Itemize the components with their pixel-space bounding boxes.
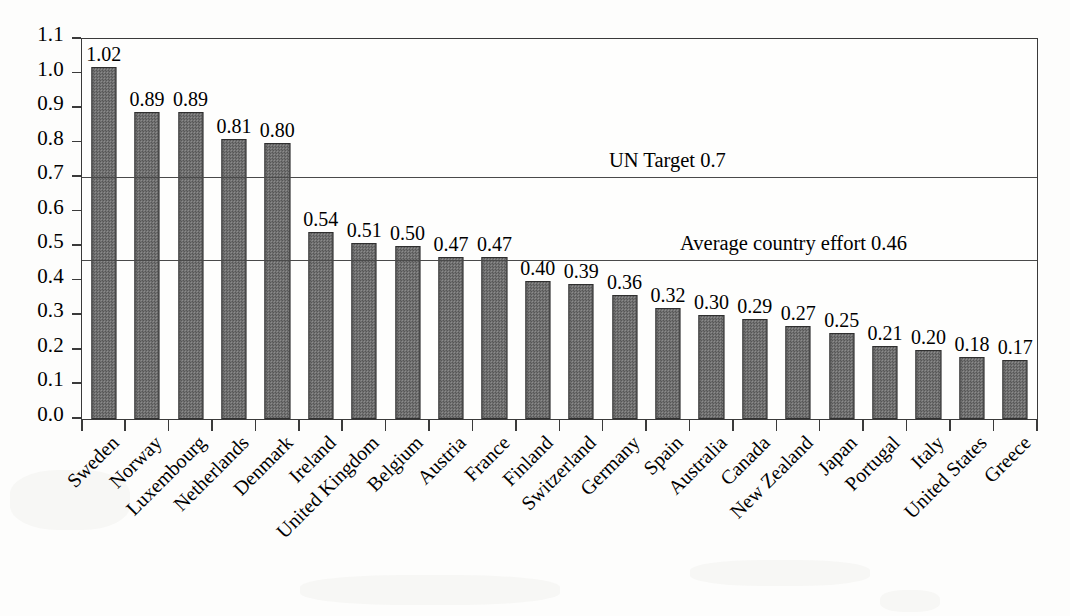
x-axis-tick-mark xyxy=(472,420,474,431)
bar-value-label: 1.02 xyxy=(86,44,121,64)
x-axis-category-label: Austria xyxy=(414,432,470,488)
x-axis-ticks xyxy=(81,420,1038,432)
bar-value-label: 0.17 xyxy=(998,337,1033,357)
x-axis-tick-mark xyxy=(211,420,213,431)
y-axis-tick-label: 0.7 xyxy=(37,162,64,183)
y-axis-tick-label: 0.2 xyxy=(37,335,64,356)
bar xyxy=(699,315,724,419)
y-axis-tick-mark xyxy=(72,175,81,177)
bar-value-label: 0.51 xyxy=(347,220,382,240)
y-axis-tick-label: 0.6 xyxy=(37,197,64,218)
bar xyxy=(221,139,246,419)
bar-value-label: 0.30 xyxy=(694,292,729,312)
bar-slot: 0.21 xyxy=(863,39,906,419)
bar-value-label: 0.89 xyxy=(173,89,208,109)
y-axis-tick-mark xyxy=(72,417,81,419)
reference-line-label: UN Target 0.7 xyxy=(609,150,726,171)
bar-value-label: 0.36 xyxy=(607,272,642,292)
bar-slot: 0.39 xyxy=(560,39,603,419)
x-axis-tick-mark xyxy=(862,420,864,431)
bar xyxy=(872,346,897,419)
x-axis-tick-mark xyxy=(341,420,343,431)
bar-slot: 0.89 xyxy=(125,39,168,419)
bar-value-label: 0.81 xyxy=(216,116,251,136)
y-axis-tick-label: 0.5 xyxy=(37,231,64,252)
y-axis-tick-label: 0.1 xyxy=(37,369,64,390)
bar-value-label: 0.54 xyxy=(303,209,338,229)
bar xyxy=(482,257,507,419)
bar xyxy=(742,319,767,419)
x-axis-tick-mark xyxy=(776,420,778,431)
y-axis-tick-label: 0.4 xyxy=(37,266,64,287)
y-axis-tick-label: 0.3 xyxy=(37,300,64,321)
x-axis-tick-mark xyxy=(124,420,126,431)
bar xyxy=(569,284,594,419)
bar-slot: 0.47 xyxy=(429,39,472,419)
y-axis-tick-mark xyxy=(72,72,81,74)
x-axis-tick-mark xyxy=(602,420,604,431)
x-axis-category-label: Greece xyxy=(979,432,1034,487)
bar xyxy=(1003,360,1028,419)
bar xyxy=(525,281,550,419)
chart-figure: 0.00.10.20.30.40.50.60.70.80.91.01.1 1.0… xyxy=(0,0,1070,616)
reference-line xyxy=(82,260,1037,261)
bar-value-label: 0.50 xyxy=(390,223,425,243)
bar-slot: 0.40 xyxy=(516,39,559,419)
bar-slot: 0.47 xyxy=(473,39,516,419)
bar-slot: 0.30 xyxy=(690,39,733,419)
x-axis-tick-mark xyxy=(168,420,170,431)
y-axis-tick-mark xyxy=(72,348,81,350)
x-axis-tick-mark xyxy=(81,420,83,431)
y-axis-tick-label: 0.0 xyxy=(37,404,64,425)
bar-slot: 1.02 xyxy=(82,39,125,419)
x-axis-tick-mark xyxy=(949,420,951,431)
y-axis-tick-mark xyxy=(72,382,81,384)
bar-slot: 0.81 xyxy=(212,39,255,419)
y-axis-tick-label: 0.9 xyxy=(37,93,64,114)
bar xyxy=(178,112,203,419)
bar-slot: 0.29 xyxy=(733,39,776,419)
bar xyxy=(829,333,854,419)
reference-line xyxy=(82,177,1037,178)
bar-value-label: 0.89 xyxy=(130,89,165,109)
x-axis-tick-mark xyxy=(689,420,691,431)
y-axis-tick-label: 0.8 xyxy=(37,128,64,149)
bar-value-label: 0.21 xyxy=(868,323,903,343)
bar-value-label: 0.25 xyxy=(824,310,859,330)
x-axis-tick-mark xyxy=(993,420,995,431)
x-axis-labels: SwedenNorwayLuxembourgNetherlandsDenmark… xyxy=(81,432,1038,582)
bar-slot: 0.80 xyxy=(256,39,299,419)
y-axis-tick-mark xyxy=(72,313,81,315)
bar-slot: 0.27 xyxy=(777,39,820,419)
bar-value-label: 0.80 xyxy=(260,120,295,140)
bar-slot: 0.32 xyxy=(646,39,689,419)
y-axis-tick-mark xyxy=(72,244,81,246)
bar-slot: 0.25 xyxy=(820,39,863,419)
reference-line-label: Average country effort 0.46 xyxy=(680,233,907,254)
x-axis-tick-mark xyxy=(515,420,517,431)
bar xyxy=(655,308,680,419)
x-axis-tick-mark xyxy=(1036,420,1038,431)
x-axis-tick-mark xyxy=(385,420,387,431)
bar-slot: 0.36 xyxy=(603,39,646,419)
bar xyxy=(352,243,377,419)
y-axis-tick-mark xyxy=(72,141,81,143)
y-axis: 0.00.10.20.30.40.50.60.70.80.91.01.1 xyxy=(0,0,81,616)
y-axis-tick-label: 1.1 xyxy=(37,24,64,45)
bar xyxy=(786,326,811,419)
x-axis-tick-mark xyxy=(645,420,647,431)
bar xyxy=(438,257,463,419)
x-axis-tick-mark xyxy=(255,420,257,431)
bar-value-label: 0.39 xyxy=(564,261,599,281)
bar xyxy=(916,350,941,419)
bar xyxy=(135,112,160,419)
bar-slot: 0.17 xyxy=(994,39,1037,419)
bar xyxy=(265,143,290,419)
y-axis-tick-mark xyxy=(72,37,81,39)
x-axis-tick-mark xyxy=(559,420,561,431)
x-axis-tick-mark xyxy=(732,420,734,431)
bar-value-label: 0.20 xyxy=(911,327,946,347)
bar-value-label: 0.29 xyxy=(737,296,772,316)
x-axis-tick-mark xyxy=(298,420,300,431)
bar-slot: 0.51 xyxy=(342,39,385,419)
